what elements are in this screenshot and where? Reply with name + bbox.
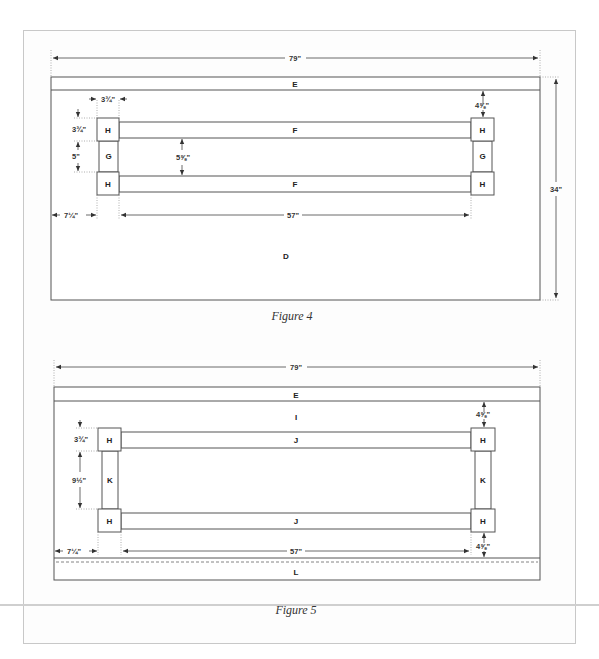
figure-4: 79" E F F G G H H H H D 3¾" — [51, 50, 562, 323]
part-label-e: E — [292, 80, 298, 89]
part-label-d: D — [283, 252, 289, 261]
overall-width-dimension: 79" — [54, 360, 540, 387]
inner-length-label: 57" — [290, 547, 302, 556]
top-offset-label: 4⅝" — [475, 101, 489, 110]
part-label-g-left: G — [105, 152, 111, 161]
block-height-label: 3¾" — [72, 125, 86, 134]
part-label-e: E — [293, 391, 299, 400]
part-label-g-right: G — [479, 152, 485, 161]
svg-text:H: H — [480, 180, 486, 189]
figure-caption: Figure 4 — [270, 309, 312, 323]
block-height-label: 3¾" — [74, 435, 88, 444]
diagram-canvas: 79" E F F G G H H H H D 3¾" — [0, 0, 599, 659]
figure-caption: Figure 5 — [274, 603, 316, 617]
side-offset-label: 7¼" — [64, 211, 78, 220]
part-label-k-right: K — [480, 476, 486, 485]
overall-width-dimension: 79" — [51, 50, 540, 77]
overall-height-label: 34" — [550, 185, 562, 194]
part-label-j-bottom: J — [294, 517, 298, 526]
overall-height-dimension: 34" — [540, 77, 562, 300]
rail-gap-label: 5⅝" — [176, 153, 190, 162]
part-label-f-bottom: F — [293, 180, 298, 189]
svg-text:H: H — [105, 126, 111, 135]
svg-text:H: H — [480, 126, 486, 135]
svg-text:H: H — [480, 436, 486, 445]
svg-text:H: H — [107, 436, 113, 445]
inner-length-label: 57" — [287, 211, 299, 220]
bottom-offset-label: 4⅝" — [476, 542, 490, 551]
svg-text:H: H — [105, 180, 111, 189]
part-label-k-left: K — [107, 476, 113, 485]
part-label-i: I — [295, 413, 297, 422]
stile-height-label: 5" — [72, 152, 80, 161]
stile-height-label: 9½" — [72, 476, 86, 485]
svg-text:H: H — [107, 517, 113, 526]
block-width-label: 3¾" — [101, 95, 115, 104]
part-label-f-top: F — [293, 126, 298, 135]
overall-width-label: 79" — [290, 363, 302, 372]
top-offset-label: 4⅝" — [476, 410, 490, 419]
figure-5: 79" E I J J K K H H H H L 3¾ — [54, 360, 540, 617]
overall-width-label: 79" — [289, 54, 301, 63]
part-label-j-top: J — [294, 436, 298, 445]
side-offset-label: 7¼" — [67, 547, 81, 556]
svg-text:H: H — [480, 517, 486, 526]
part-label-l: L — [294, 568, 299, 577]
